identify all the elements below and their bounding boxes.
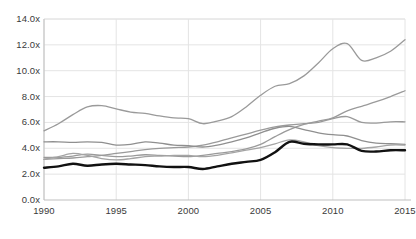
axis-lines: [44, 19, 411, 200]
x-tick-label: 2000: [165, 205, 211, 216]
series-line-series-3: [44, 91, 405, 158]
x-tick-label: 2010: [310, 205, 356, 216]
series-lines: [44, 40, 405, 169]
series-line-series-5: [44, 140, 405, 160]
plot-area: [0, 0, 416, 239]
x-tick-label: 1995: [93, 205, 139, 216]
x-tick-label: 1990: [21, 205, 67, 216]
x-tick-label: 2005: [238, 205, 284, 216]
line-chart: 14.0x12.0x10.0x8.0x6.0x4.0x2.0x0.0x 1990…: [0, 0, 416, 239]
x-tick-label: 2015: [382, 205, 416, 216]
series-line-series-4: [44, 126, 405, 147]
